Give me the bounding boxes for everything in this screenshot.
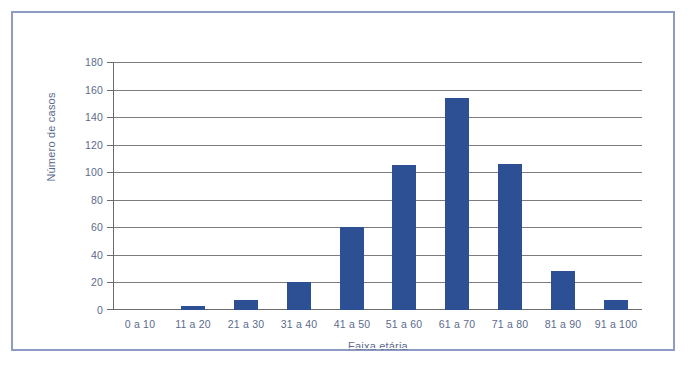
y-axis-tick-label: 80 bbox=[91, 194, 103, 206]
plot-area: 020406080100120140160180 bbox=[114, 62, 642, 310]
y-axis-tick-label: 180 bbox=[85, 56, 103, 68]
bar bbox=[287, 282, 311, 310]
x-axis-title: Faixa etária bbox=[114, 340, 642, 352]
x-axis-tick-label: 71 a 80 bbox=[492, 318, 528, 330]
y-axis-tick bbox=[107, 172, 113, 173]
y-axis-tick-label: 20 bbox=[91, 276, 103, 288]
y-axis-tick bbox=[107, 200, 113, 201]
x-axis-tick-labels: 0 a 1011 a 2021 a 3031 a 4041 a 5051 a 6… bbox=[114, 318, 642, 336]
y-axis-tick-label: 40 bbox=[91, 249, 103, 261]
bar bbox=[551, 271, 575, 310]
chart-frame: Número de casos 020406080100120140160180… bbox=[11, 11, 675, 351]
x-axis-tick-label: 81 a 90 bbox=[545, 318, 581, 330]
figure-root: Número de casos 020406080100120140160180… bbox=[0, 0, 688, 374]
bar bbox=[392, 165, 416, 310]
bar bbox=[498, 164, 522, 310]
x-axis-tick-label: 51 a 60 bbox=[386, 318, 422, 330]
x-axis-tick-label: 61 a 70 bbox=[439, 318, 475, 330]
y-axis-tick-label: 60 bbox=[91, 221, 103, 233]
x-axis-tick-label: 41 a 50 bbox=[334, 318, 370, 330]
bar bbox=[234, 300, 258, 310]
y-axis-tick-label: 160 bbox=[85, 84, 103, 96]
figure-caption bbox=[13, 364, 613, 374]
y-axis-tick bbox=[107, 255, 113, 256]
bar bbox=[445, 98, 469, 310]
x-axis-tick-label: 0 a 10 bbox=[125, 318, 155, 330]
y-axis-tick-label: 0 bbox=[97, 304, 103, 316]
y-axis-title: Número de casos bbox=[45, 77, 57, 197]
x-axis-tick-label: 31 a 40 bbox=[281, 318, 317, 330]
y-axis-tick bbox=[107, 309, 113, 310]
y-axis-tick bbox=[107, 117, 113, 118]
x-axis-tick-label: 11 a 20 bbox=[175, 318, 211, 330]
x-axis-tick-label: 91 a 100 bbox=[595, 318, 637, 330]
y-axis-tick bbox=[107, 282, 113, 283]
bar bbox=[181, 306, 205, 310]
bar bbox=[340, 227, 364, 310]
y-axis-tick bbox=[107, 90, 113, 91]
x-axis-tick-label: 21 a 30 bbox=[228, 318, 264, 330]
y-axis-tick bbox=[107, 62, 113, 63]
y-axis-tick bbox=[107, 145, 113, 146]
y-axis-tick-label: 140 bbox=[85, 111, 103, 123]
y-axis-tick bbox=[107, 227, 113, 228]
y-axis-tick-label: 120 bbox=[85, 139, 103, 151]
bars-layer bbox=[114, 62, 642, 310]
y-axis-tick-label: 100 bbox=[85, 166, 103, 178]
bar bbox=[604, 300, 628, 310]
